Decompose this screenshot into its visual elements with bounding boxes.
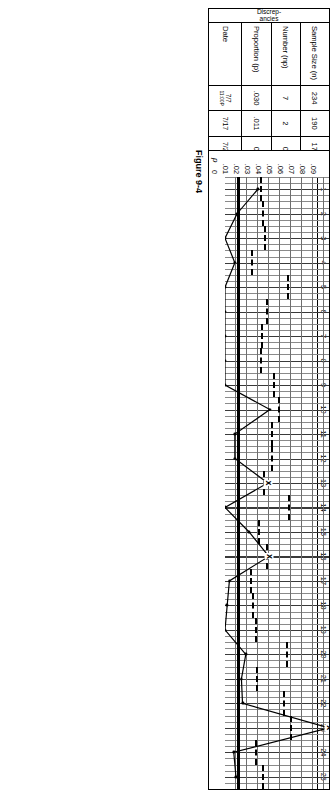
data-point: [244, 653, 247, 656]
cell-proportion-p: .030: [241, 86, 270, 110]
y-axis-tick-label: .08: [297, 164, 306, 174]
data-point: [233, 457, 236, 460]
data-point: [236, 212, 239, 215]
table-row-labels: Discrep-ancies Sample Size (n) Number (n…: [209, 9, 329, 86]
data-point: [228, 580, 231, 583]
table-column: 2347.0307/711:00P: [209, 86, 329, 111]
data-point: [241, 702, 244, 705]
cell-proportion-p: .011: [241, 111, 270, 135]
data-point: [233, 433, 236, 436]
y-axis-tick-label: .09: [308, 164, 317, 174]
discrepancies-group-label: Discrep-ancies: [209, 9, 329, 23]
row-label-sample-size: Sample Size (n): [300, 23, 329, 85]
y-axis-tick-label: .01: [220, 164, 229, 174]
figure-caption: Figure 9-4: [194, 150, 204, 193]
cell-sample-size: 234: [300, 86, 329, 110]
data-point: [240, 677, 243, 680]
data-point: [248, 531, 251, 534]
y-axis-tick-label: .03: [242, 164, 251, 174]
data-point: [226, 604, 229, 607]
data-point: [235, 775, 238, 778]
out-of-control-marker: x: [263, 480, 272, 486]
data-point: [256, 188, 259, 191]
data-point: [233, 261, 236, 264]
y-axis-tick-label: .07: [286, 164, 295, 174]
row-label-proportion: Proportion (p): [241, 23, 270, 85]
data-point: [232, 751, 235, 754]
discrepancies-label-text: Discrep-ancies: [257, 9, 281, 23]
y-axis-tick-label: .04: [253, 164, 262, 174]
y-axis-tick-label: .06: [275, 164, 284, 174]
cell-sample-size: 190: [300, 111, 329, 135]
cell-number-np: 2: [271, 111, 300, 135]
plot-area: xxx: [225, 177, 329, 789]
table-column: 1902.0117/17: [209, 111, 329, 136]
y-axis-label: p: [211, 158, 220, 162]
cell-date: 7/711:00P: [209, 86, 241, 110]
y-axis: 0.01.02.03.04.05.06.07.08.09: [225, 151, 318, 178]
cell-date: 7/17: [209, 111, 241, 135]
y-axis-tick-label: 0: [210, 170, 219, 174]
p-control-chart: 0.01.02.03.04.05.06.07.08.09 p 123456789…: [208, 150, 330, 790]
row-label-date: Date: [209, 23, 241, 85]
cell-number-np: 7: [271, 86, 300, 110]
row-label-number: Number (np): [271, 23, 300, 85]
data-point: [268, 408, 271, 411]
figure-9-4: Discrep-ancies Sample Size (n) Number (n…: [0, 0, 334, 796]
out-of-control-marker: x: [325, 725, 330, 731]
out-of-control-marker: x: [264, 553, 273, 559]
data-series-line: [225, 177, 329, 789]
y-axis-tick-label: .02: [231, 164, 240, 174]
y-axis-tick-label: .05: [264, 164, 273, 174]
